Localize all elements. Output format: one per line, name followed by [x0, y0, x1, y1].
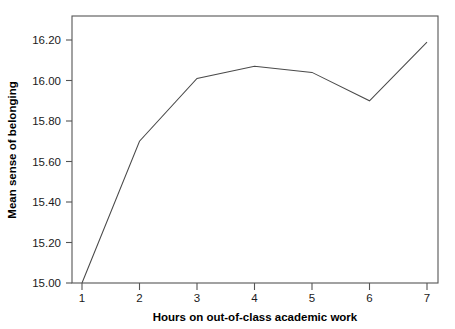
y-axis-ticks: [66, 40, 72, 283]
y-tick-label-15-60: 15.60: [32, 156, 61, 168]
chart-figure: 15.00 15.20 15.40 15.60 15.80 16.00 16.2…: [0, 0, 455, 329]
y-tick-label-16-20: 16.20: [32, 34, 61, 46]
x-axis-title: Hours on out-of-class academic work: [153, 311, 358, 323]
x-tick-label-6: 6: [366, 292, 372, 304]
plot-frame: [72, 16, 438, 283]
x-axis-ticks: [82, 283, 427, 290]
x-tick-label-3: 3: [194, 292, 200, 304]
line-chart: 15.00 15.20 15.40 15.60 15.80 16.00 16.2…: [0, 0, 455, 329]
x-tick-label-5: 5: [309, 292, 315, 304]
y-axis-tick-labels: 15.00 15.20 15.40 15.60 15.80 16.00 16.2…: [32, 34, 61, 289]
y-tick-label-15-80: 15.80: [32, 115, 61, 127]
y-tick-label-15-40: 15.40: [32, 196, 61, 208]
data-series-line: [82, 42, 427, 283]
y-tick-label-15-00: 15.00: [32, 277, 61, 289]
y-axis-title: Mean sense of belonging: [6, 81, 18, 218]
x-tick-label-4: 4: [251, 292, 258, 304]
y-tick-label-16-00: 16.00: [32, 75, 61, 87]
x-tick-label-1: 1: [79, 292, 85, 304]
x-axis-tick-labels: 1 2 3 4 5 6 7: [79, 292, 430, 304]
x-tick-label-7: 7: [424, 292, 430, 304]
y-tick-label-15-20: 15.20: [32, 237, 61, 249]
x-tick-label-2: 2: [136, 292, 142, 304]
